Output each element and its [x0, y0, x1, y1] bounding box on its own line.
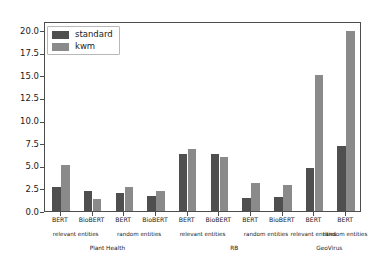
bar-standard [274, 197, 283, 211]
y-axis-tick-mark [40, 212, 44, 213]
legend-swatch-kwm [52, 43, 69, 51]
x-axis-entity-group-label: random entities [240, 231, 292, 237]
legend-label-standard: standard [75, 30, 113, 39]
bar-kwm [125, 187, 134, 211]
bar-standard [306, 168, 315, 211]
y-axis-tick-label: 15.0 [9, 72, 39, 81]
x-axis-entity-group-label: relevant entities [50, 231, 102, 237]
bar-standard [147, 196, 156, 211]
bar-kwm [93, 199, 102, 211]
y-axis-tick-label: 7.5 [9, 140, 39, 149]
bar-standard [179, 154, 188, 211]
bar-kwm [188, 149, 197, 211]
x-axis-model-label: BioBERT [79, 216, 105, 223]
legend-entry-kwm: kwm [52, 42, 113, 51]
x-axis-model-label: BioBERT [269, 216, 295, 223]
x-axis-model-label: BioBERT [206, 216, 232, 223]
bar-kwm [283, 185, 292, 211]
x-axis-dataset-label: GeoVirus [316, 245, 342, 252]
x-axis-model-label: BERT [115, 216, 131, 223]
bar-chart-figure: 0.02.55.07.510.012.515.017.520.0 BERTBio… [0, 0, 370, 269]
y-axis-tick-label: 0.0 [9, 208, 39, 217]
y-axis-tick-label: 17.5 [9, 49, 39, 58]
bar-standard [116, 193, 125, 211]
x-axis-dataset-label: RB [230, 245, 238, 252]
y-axis-tick-label: 2.5 [9, 185, 39, 194]
x-axis-entity-group-label: relevant entities [177, 231, 229, 237]
x-axis-model-label: BERT [242, 216, 258, 223]
bar-kwm [156, 191, 165, 211]
bar-kwm [315, 75, 324, 211]
legend-label-kwm: kwm [75, 42, 95, 51]
x-axis-model-label: BioBERT [142, 216, 168, 223]
x-axis-entity-group-label: random entities [319, 231, 370, 237]
bar-kwm [61, 165, 70, 211]
y-axis-tick-label: 12.5 [9, 94, 39, 103]
x-axis-model-label: BERT [306, 216, 322, 223]
x-axis-model-label: BERT [337, 216, 353, 223]
bar-standard [211, 154, 220, 211]
bar-standard [84, 191, 93, 211]
bar-kwm [220, 157, 229, 211]
legend-swatch-standard [52, 31, 69, 39]
chart-legend: standard kwm [47, 26, 120, 55]
y-axis-tick-label: 20.0 [9, 27, 39, 36]
bar-standard [52, 187, 61, 211]
bar-kwm [346, 31, 355, 211]
y-axis-tick-label: 10.0 [9, 117, 39, 126]
x-axis-dataset-label: Plant Health [90, 245, 125, 252]
x-axis-model-label: BERT [179, 216, 195, 223]
x-axis-entity-group-label: random entities [113, 231, 165, 237]
y-axis-tick-label: 5.0 [9, 162, 39, 171]
bar-standard [337, 146, 346, 211]
bar-kwm [251, 183, 260, 211]
bar-standard [242, 198, 251, 211]
legend-entry-standard: standard [52, 30, 113, 39]
x-axis-model-label: BERT [52, 216, 68, 223]
